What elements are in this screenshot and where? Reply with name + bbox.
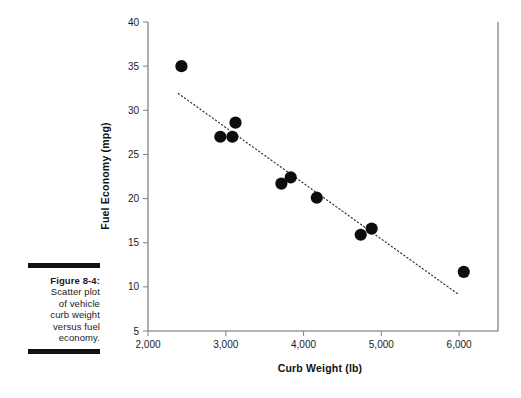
figure-page: Figure 8-4: Scatter plot of vehicle curb… bbox=[0, 0, 521, 398]
y-tick-label: 30 bbox=[128, 105, 140, 116]
plot-frame bbox=[148, 22, 498, 331]
data-point bbox=[285, 171, 297, 183]
data-point bbox=[355, 229, 367, 241]
data-point bbox=[458, 266, 470, 278]
y-tick-label: 25 bbox=[128, 149, 140, 160]
x-axis-ticks: 2,0003,0004,0005,0006,000 bbox=[135, 331, 472, 350]
data-point bbox=[366, 222, 378, 234]
x-axis-title: Curb Weight (lb) bbox=[278, 362, 363, 374]
scatter-plot-svg: 510152025303540 2,0003,0004,0005,0006,00… bbox=[0, 0, 521, 398]
y-axis-title: Fuel Economy (mpg) bbox=[99, 122, 111, 229]
y-tick-label: 10 bbox=[128, 281, 140, 292]
y-tick-label: 15 bbox=[128, 237, 140, 248]
data-point bbox=[311, 192, 323, 204]
x-tick-label: 4,000 bbox=[291, 339, 316, 350]
data-point bbox=[214, 131, 226, 143]
scatter-chart: 510152025303540 2,0003,0004,0005,0006,00… bbox=[0, 0, 521, 398]
x-tick-label: 2,000 bbox=[135, 339, 160, 350]
y-tick-label: 20 bbox=[128, 193, 140, 204]
data-point bbox=[229, 117, 241, 129]
y-axis-ticks: 510152025303540 bbox=[128, 17, 148, 337]
y-tick-label: 5 bbox=[133, 326, 139, 337]
data-points-group bbox=[175, 60, 470, 278]
data-point bbox=[226, 131, 238, 143]
x-tick-label: 5,000 bbox=[369, 339, 394, 350]
data-point bbox=[175, 60, 187, 72]
y-tick-label: 35 bbox=[128, 61, 140, 72]
x-tick-label: 6,000 bbox=[447, 339, 472, 350]
y-tick-label: 40 bbox=[128, 17, 140, 28]
axis-frame bbox=[148, 22, 498, 331]
x-tick-label: 3,000 bbox=[213, 339, 238, 350]
